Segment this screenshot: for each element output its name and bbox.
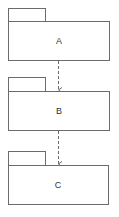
package-a-label: A: [56, 36, 62, 46]
package-a[interactable]: A: [9, 9, 110, 61]
package-b-tab: [9, 78, 46, 92]
package-c-label: C: [55, 180, 62, 190]
package-diagram: A B C: [0, 0, 119, 217]
package-c-tab: [9, 152, 46, 166]
package-c[interactable]: C: [9, 152, 109, 205]
package-b[interactable]: B: [9, 78, 110, 131]
package-b-label: B: [56, 106, 62, 116]
package-a-tab: [9, 9, 46, 22]
